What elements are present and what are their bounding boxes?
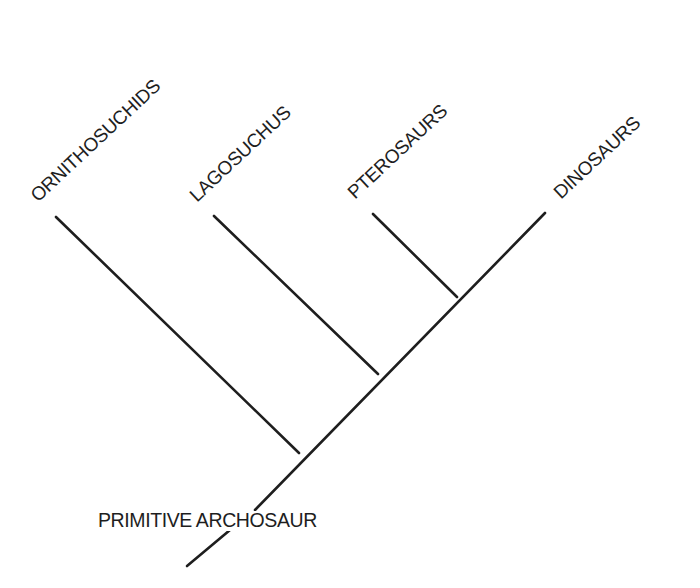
branch-ornithosuchids [56, 217, 299, 453]
cladogram-canvas [0, 0, 700, 588]
stem-root-segment [187, 530, 230, 566]
stem-main-branch [255, 213, 545, 510]
branch-pterosaurs [373, 214, 457, 297]
root-label-primitive-archosaur: PRIMITIVE ARCHOSAUR [97, 511, 318, 531]
branch-lagosuchus [214, 216, 378, 374]
